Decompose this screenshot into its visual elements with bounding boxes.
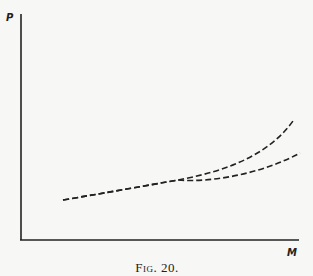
- lower-dashed-curve: [63, 153, 300, 200]
- figure: P M Fig. 20.: [0, 0, 313, 276]
- y-axis-label: P: [6, 12, 14, 23]
- upper-dashed-curve: [63, 121, 293, 200]
- figure-caption: Fig. 20.: [135, 260, 178, 275]
- x-axis-label: M: [287, 247, 297, 258]
